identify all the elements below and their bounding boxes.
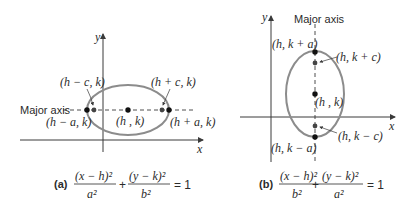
vertex-left-a [84,107,89,112]
panel-b: y x Major axis (h, k + a) (h, k + c) (h … [240,10,395,201]
eq-a-term1-den: a² [87,187,97,201]
caption-b: (b) [259,178,273,190]
top-focus-label-b: (h, k + c) [336,50,381,64]
vertex-bottom-b [312,134,317,139]
right-vertex-label-a: (h + a, k) [170,115,215,129]
bottom-focus-label-b: (h, k − c) [338,129,383,143]
eq-a-rhs: = 1 [174,178,191,192]
bottom-vertex-label-b: (h, k − a) [271,141,316,155]
left-vertex-label-a: (h − a, k) [46,115,91,129]
top-vertex-label-b: (h, k + a) [272,37,317,51]
vertex-right-a [166,107,171,112]
left-focus-label-a: (h − c, k) [60,75,105,89]
focus-left-a [92,108,97,113]
ellipse-diagrams: y x Major axis (h − c, k) (h + c, k) (h … [0,0,415,208]
focus-top-b [313,61,318,66]
caption-a: (a) [54,178,68,190]
major-axis-label-b: Major axis [294,13,345,25]
eq-b-term2-den: a² [334,187,344,201]
eq-a-plus: + [119,178,126,192]
panel-a: y x Major axis (h − c, k) (h + c, k) (h … [20,30,215,201]
y-axis-label-a: y [94,30,101,44]
center-label-b: (h , k) [315,95,343,109]
eq-a-term2-num: (y − k)² [129,169,166,183]
focus-right-a [160,108,165,113]
eq-b-plus: + [312,178,319,192]
center-a [125,107,130,112]
eq-a-term2-den: b² [141,187,151,201]
eq-b-rhs: = 1 [367,178,384,192]
center-label-a: (h , k) [116,114,144,128]
x-axis-label-a: x [196,142,203,156]
eq-a-term1-num: (x − h)² [75,169,112,183]
eq-b-term1-den: b² [292,187,302,201]
focus-bottom-b [313,124,318,129]
right-focus-label-a: (h + c, k) [151,75,196,89]
eq-b-term2-num: (y − k)² [322,169,359,183]
y-axis-label-b: y [261,10,268,24]
x-axis-label-b: x [388,119,395,133]
